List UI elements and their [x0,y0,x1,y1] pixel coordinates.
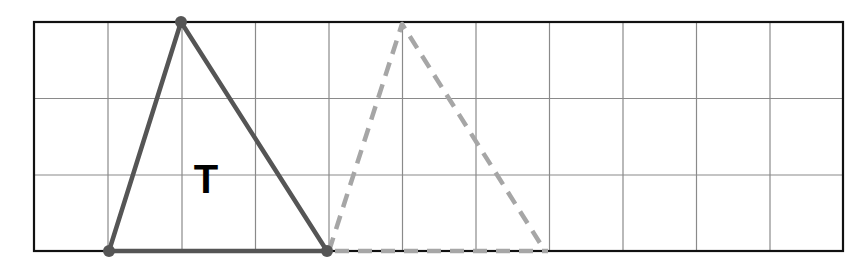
grid-border [34,22,843,251]
solid-triangle-T [109,22,327,251]
dashed-triangle [329,24,545,251]
grid-lines [34,22,843,251]
vertex-dot [103,245,115,257]
triangle-label: T [194,157,218,201]
vertex-dot [321,245,333,257]
vertex-dot [175,16,187,28]
grid-diagram: T [0,0,865,265]
